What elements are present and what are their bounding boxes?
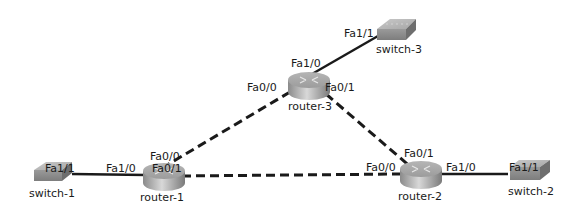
link-router3-router1 xyxy=(162,92,290,168)
port-label: Fa0/1 xyxy=(152,162,182,175)
switch-3-device[interactable]: switch-3 xyxy=(376,19,422,56)
device-label: switch-2 xyxy=(508,185,554,198)
link-router3-switch3 xyxy=(312,36,378,74)
port-label: Fa0/0 xyxy=(247,81,277,94)
router-icon xyxy=(288,72,330,100)
port-label: Fa1/0 xyxy=(106,162,136,175)
port-label: Fa0/1 xyxy=(325,81,355,94)
device-label: router-1 xyxy=(140,191,184,204)
port-label: Fa1/0 xyxy=(446,161,476,174)
port-label: Fa1/1 xyxy=(344,27,374,40)
link-router1-router2 xyxy=(182,174,400,176)
port-label: Fa1/1 xyxy=(509,161,539,174)
port-label: Fa0/0 xyxy=(366,161,396,174)
device-label: router-3 xyxy=(288,100,332,113)
link-router3-router2 xyxy=(326,94,412,168)
router-icon xyxy=(400,161,442,189)
switch-icon xyxy=(377,19,416,40)
device-label: switch-1 xyxy=(29,187,75,200)
port-label: Fa1/0 xyxy=(291,57,321,70)
port-label: Fa1/1 xyxy=(45,162,75,175)
router-2-device[interactable]: router-2 xyxy=(398,161,442,203)
device-label: switch-3 xyxy=(376,43,422,56)
port-label: Fa0/1 xyxy=(404,147,434,160)
device-label: router-2 xyxy=(398,190,442,203)
network-topology-diagram: router-3 router-1 router-2 switch-1 xyxy=(0,0,576,213)
